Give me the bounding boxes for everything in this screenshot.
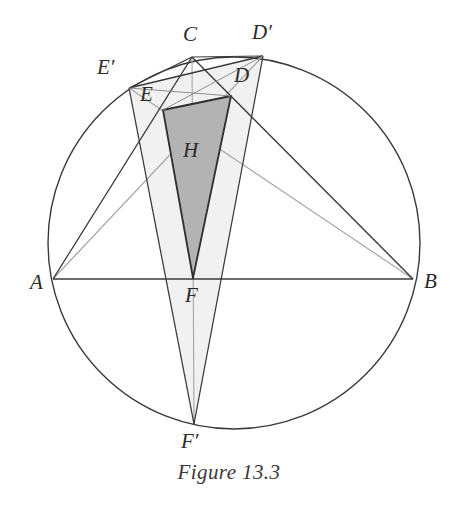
point-label-E: E (140, 84, 153, 105)
point-label-D-prime: D′ (252, 22, 272, 43)
geometry-figure: A B C D E F D′ E′ F′ H Figure 13.3 (0, 0, 458, 507)
point-label-C: C (183, 24, 197, 45)
point-label-F: F (185, 285, 198, 306)
geometry-canvas (0, 0, 458, 507)
point-label-E-prime: E′ (97, 57, 114, 78)
figure-caption: Figure 13.3 (0, 460, 458, 485)
point-label-H: H (183, 140, 198, 161)
point-label-D: D (234, 65, 249, 86)
point-label-F-prime: F′ (181, 431, 198, 452)
point-label-A: A (30, 272, 43, 293)
point-label-B: B (424, 271, 437, 292)
chord-C-Dp (192, 56, 263, 57)
